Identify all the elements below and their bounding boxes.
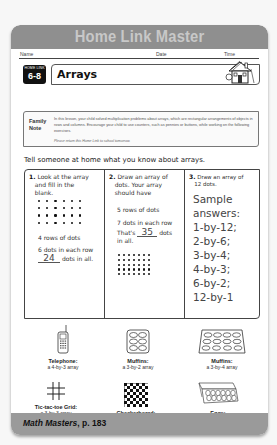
prompt-line: dots. Your array <box>115 181 162 188</box>
answer-suffix: dots <box>159 229 172 236</box>
checkerboard-icon <box>124 383 148 407</box>
array-examples: Telephone: a 4-by-3 array Muffins: a 3-b… <box>11 325 268 413</box>
dot <box>143 259 145 261</box>
dot <box>123 268 125 270</box>
sample-line: 2-by-6; <box>193 235 230 247</box>
in-all-text: in all. <box>117 237 133 244</box>
sample-line: 3-by-4; <box>193 249 230 261</box>
banner: Home Link Master <box>11 25 268 49</box>
dot <box>63 214 65 216</box>
badge-number: 6-8 <box>23 71 46 81</box>
prompt-line: Look at the array <box>37 173 88 180</box>
dot <box>118 273 120 275</box>
dot <box>138 268 140 270</box>
dot <box>71 222 73 224</box>
home-link-page: Home Link Master Name Date Time HOME LIN… <box>11 25 268 435</box>
dot <box>71 207 73 209</box>
dot <box>54 214 56 216</box>
family-note: Family Note In this lesson, your child s… <box>23 111 259 147</box>
dot <box>148 268 150 270</box>
dot <box>46 207 48 209</box>
prompt-line: 12 dots. <box>194 181 216 187</box>
problems-box: 1. Look at the array and fill in the bla… <box>24 169 260 319</box>
dot-array-4x6 <box>38 200 81 224</box>
sample-answers: Sample answers: 1-by-12; 2-by-6; 3-by-4;… <box>193 192 240 304</box>
dot <box>63 207 65 209</box>
sample-line: 4-by-3; <box>193 263 230 275</box>
banner-title: Home Link Master <box>75 25 205 49</box>
prompt-line: Draw an array of <box>117 173 167 180</box>
dot <box>143 254 145 256</box>
tic-tac-toe-icon <box>46 381 66 401</box>
dot <box>46 214 48 216</box>
page-ref: , p. 183 <box>77 418 106 428</box>
problem-3: 3. Draw an array of 12 dots. Sample answ… <box>185 170 259 318</box>
dot <box>148 264 150 266</box>
answer-line: 24 dots in all. <box>38 254 93 263</box>
example-desc: a 3-by-2 array <box>108 364 168 370</box>
dot <box>128 273 130 275</box>
dot <box>54 200 56 202</box>
dot <box>63 222 65 224</box>
family-note-text: In this lesson, your child solved multip… <box>54 116 254 134</box>
dot <box>143 264 145 266</box>
dot <box>133 264 135 266</box>
example-desc: a 4-by-3 array <box>33 364 93 370</box>
footer-bar: Math Masters, p. 183 <box>11 413 268 435</box>
dot <box>71 200 73 202</box>
sample-line: 1-by-12; <box>193 221 237 233</box>
prompt-line: blank. <box>35 189 53 196</box>
family-note-label: Family Note <box>29 118 46 131</box>
example-tic-tac-toe: Tic-tac-toe Grid: a 3-by-3 array <box>21 381 91 416</box>
example-telephone: Telephone: a 4-by-3 array <box>33 325 93 370</box>
prompt-line: and fill in the <box>35 181 74 188</box>
muffin-tin-small-icon <box>126 329 150 355</box>
lesson-title-box: Arrays <box>51 64 260 85</box>
dot <box>128 268 130 270</box>
dot <box>38 214 40 216</box>
family-note-return: Please return this Home Link to school t… <box>54 139 130 143</box>
house-icon <box>225 59 255 85</box>
dot <box>79 214 81 216</box>
name-field-label: Name <box>20 51 33 57</box>
dot <box>138 254 140 256</box>
problem-number: 3. <box>189 173 195 180</box>
answer-blank[interactable]: 24 <box>38 254 60 263</box>
prompt-line: should have <box>115 189 152 196</box>
dot <box>118 259 120 261</box>
book-title: Math Masters <box>23 418 77 428</box>
dot <box>138 273 140 275</box>
dot <box>54 222 56 224</box>
dot <box>123 254 125 256</box>
dot <box>128 259 130 261</box>
telephone-icon <box>55 325 71 355</box>
home-link-badge: HOME LINK 6-8 <box>23 65 46 84</box>
dot <box>138 264 140 266</box>
problem-number: 1. <box>29 173 35 180</box>
dot <box>148 254 150 256</box>
lesson-title: Arrays <box>57 68 97 81</box>
problem-2: 2. Draw an array of dots. Your array sho… <box>105 170 185 318</box>
dot <box>123 264 125 266</box>
dot <box>138 259 140 261</box>
dot <box>118 264 120 266</box>
dot <box>128 254 130 256</box>
problem-number: 2. <box>109 173 115 180</box>
dot <box>143 268 145 270</box>
prompt-line: Draw an array of <box>197 174 243 180</box>
dot <box>71 214 73 216</box>
dot <box>79 200 81 202</box>
dot <box>148 273 150 275</box>
dot <box>38 200 40 202</box>
problem-3-prompt: 3. Draw an array of 12 dots. <box>189 173 243 188</box>
dot <box>143 273 145 275</box>
example-muffins-3x4: Muffins: a 3-by-4 array <box>187 329 257 370</box>
dot-array-5x7 <box>118 254 150 275</box>
dot <box>46 222 48 224</box>
dot <box>148 259 150 261</box>
sample-line: Sample <box>193 193 232 205</box>
family-label: Family <box>29 118 46 124</box>
dot <box>133 254 135 256</box>
answer-blank[interactable]: 35 <box>137 228 157 237</box>
dot <box>38 207 40 209</box>
